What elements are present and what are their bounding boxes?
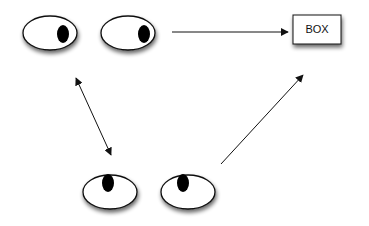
pupil (177, 174, 189, 192)
eyes-group (23, 16, 215, 209)
pupil (138, 25, 150, 43)
box-node: BOX (293, 15, 341, 44)
pupil (57, 25, 69, 43)
arrow-bottom-eyes-to-box (221, 75, 303, 164)
box-label: BOX (305, 23, 329, 35)
eye-top-left (23, 16, 77, 50)
diagram-canvas: BOX (0, 0, 369, 226)
eye-bottom-right (161, 174, 215, 209)
arrow-top-bottom-eyes (76, 78, 111, 155)
eye-bottom-left (83, 174, 137, 209)
arrows-group (76, 32, 303, 164)
pupil (102, 174, 114, 192)
eye-top-right (101, 16, 155, 50)
